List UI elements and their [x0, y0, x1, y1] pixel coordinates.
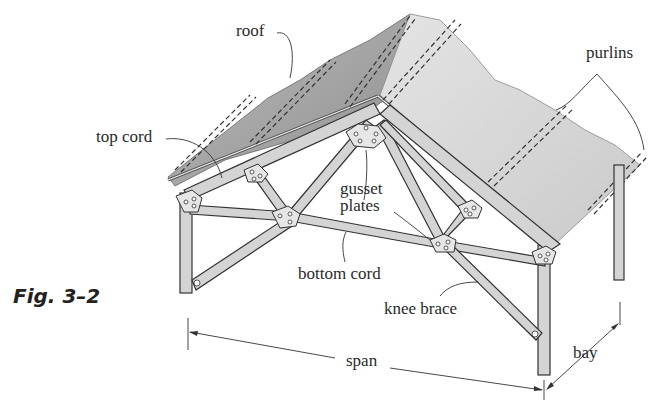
label-bottom-cord: bottom cord — [298, 265, 381, 282]
label-gusset: gusset — [340, 180, 383, 197]
label-roof: roof — [236, 22, 264, 39]
label-span: span — [346, 352, 377, 369]
truss-diagram: roof purlins top cord gusset plates bott… — [0, 0, 652, 405]
label-plates: plates — [340, 197, 380, 214]
dimension-arrows — [189, 323, 619, 391]
truss-drawing — [0, 0, 652, 405]
label-knee-brace: knee brace — [384, 300, 457, 317]
label-top-cord: top cord — [96, 128, 152, 145]
figure-caption: Fig. 3–2 — [13, 284, 100, 308]
label-purlins: purlins — [586, 44, 633, 61]
label-bay: bay — [573, 344, 598, 361]
